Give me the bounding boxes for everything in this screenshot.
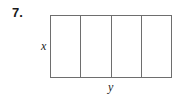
rectangle-section-2 [81, 16, 111, 77]
rectangle-section-3 [112, 16, 142, 77]
rectangle-section-1 [51, 16, 81, 77]
bottom-length-label-y: y [108, 81, 113, 93]
rectangle-section-4 [142, 16, 171, 77]
divided-rectangle-figure [50, 15, 172, 78]
problem-number: 7. [12, 6, 23, 20]
side-length-label-x: x [41, 40, 46, 52]
